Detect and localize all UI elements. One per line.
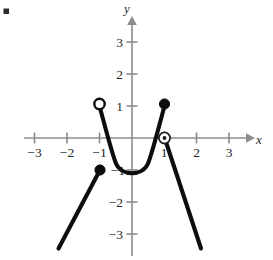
ring-endpoint-center-dot [163,136,167,140]
function-curves [59,106,202,249]
x-axis-arrowhead [246,133,255,143]
y-tick-label-1: 1 [116,99,123,114]
x-tick-label--3: −3 [27,145,42,160]
graph-canvas: −3 −2 −1 2 3 3 2 1 −1 −2 −3 1 x y [0,0,273,260]
y-tick-label-2: 2 [116,67,123,82]
left-ray-segment [59,170,101,249]
y-axis-arrowhead [127,16,137,25]
y-tick-label--3: −3 [109,227,124,242]
open-circle-endpoint [94,99,104,109]
x-tick-label--1: −1 [92,145,106,160]
filled-dot-endpoint-left [95,165,105,175]
x-tick-label-2: 2 [193,145,200,160]
x-tick-label--2: −2 [60,145,74,160]
y-tick-label--2: −2 [109,195,123,210]
filled-dot-endpoint-right [159,99,169,109]
axes-group [24,16,255,256]
y-axis-label: y [122,1,130,16]
x-tick-labels: −3 −2 −1 2 3 [27,145,232,160]
x-tick-label-3: 3 [226,145,233,160]
bullet-marker [4,9,10,15]
y-tick-label-3: 3 [116,35,123,50]
x-axis-label: x [255,132,262,147]
function-graph-figure: −3 −2 −1 2 3 3 2 1 −1 −2 −3 1 x y [0,0,273,260]
